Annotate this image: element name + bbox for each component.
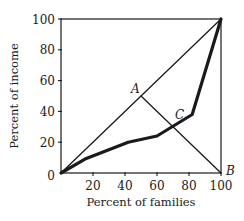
y-tick-label: 0 [47, 169, 55, 183]
y-axis-ticks: 020406080100 [32, 13, 62, 184]
x-tick-label: 80 [181, 179, 196, 193]
y-tick-label: 20 [40, 136, 55, 150]
x-tick-label: 100 [210, 179, 233, 193]
x-tick-label: 40 [117, 179, 132, 193]
point-labels: ABC [130, 82, 235, 178]
y-tick-label: 100 [32, 13, 55, 27]
y-tick-label: 60 [40, 74, 55, 88]
y-axis-title: Percent of income [7, 43, 21, 149]
point-label-a: A [130, 82, 140, 96]
x-axis-ticks: 20406080100 [85, 172, 232, 193]
y-tick-label: 40 [40, 105, 55, 119]
lorenz-chart: 020406080100 20406080100 ABC Percent of … [0, 0, 244, 221]
point-label-b: B [225, 164, 235, 178]
y-tick-label: 80 [40, 43, 55, 57]
x-tick-label: 60 [149, 179, 164, 193]
x-axis-title: Percent of families [86, 195, 195, 209]
x-tick-label: 20 [85, 179, 100, 193]
point-label-c: C [175, 108, 184, 122]
series-group [61, 19, 221, 173]
